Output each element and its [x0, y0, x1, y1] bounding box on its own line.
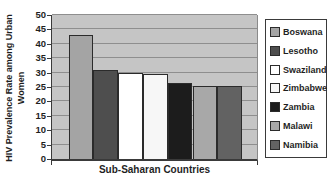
legend-label: Lesotho	[283, 46, 318, 56]
legend-item-lesotho: Lesotho	[270, 46, 326, 56]
y-tick-label-35: 35	[24, 53, 46, 63]
y-tick-mark-45	[47, 29, 51, 30]
bar-lesotho	[93, 70, 118, 159]
y-tick-mark-30	[47, 73, 51, 74]
legend-swatch-swaziland	[270, 65, 280, 75]
y-tick-label-0: 0	[24, 154, 46, 164]
legend-label: Swaziland	[283, 65, 327, 75]
x-tick-mark-left	[51, 161, 52, 165]
y-tick-mark-20	[47, 101, 51, 102]
bar-zimbabwe	[143, 74, 168, 159]
legend-swatch-zambia	[270, 102, 280, 112]
y-tick-label-25: 25	[24, 82, 46, 92]
y-tick-mark-10	[47, 130, 51, 131]
legend-swatch-namibia	[270, 140, 280, 150]
y-tick-label-15: 15	[24, 111, 46, 121]
y-axis-title-line1: HIV Prevalence Rate among Urban	[3, 13, 15, 163]
bar-swaziland	[118, 73, 143, 159]
legend-swatch-malawi	[270, 121, 280, 131]
bar-zambia	[168, 83, 193, 159]
x-tick-mark-right	[257, 161, 258, 165]
legend-label: Zimbabwe	[283, 83, 327, 93]
gridline-45	[52, 28, 257, 29]
y-tick-mark-0	[47, 159, 51, 160]
bar-namibia	[217, 86, 242, 159]
y-tick-mark-50	[47, 15, 51, 16]
legend-item-boswana: Boswana	[270, 27, 326, 37]
y-tick-mark-40	[47, 44, 51, 45]
y-tick-label-40: 40	[24, 39, 46, 49]
legend-label: Zambia	[283, 102, 315, 112]
plot-area	[51, 15, 258, 161]
legend-swatch-lesotho	[270, 46, 280, 56]
gridline-50	[52, 14, 257, 15]
y-tick-label-5: 5	[24, 140, 46, 150]
bar-chart: HIV Prevalence Rate among Urban Women Su…	[0, 0, 333, 182]
y-tick-label-20: 20	[24, 96, 46, 106]
legend-label: Namibia	[283, 140, 318, 150]
bar-malawi	[193, 86, 218, 159]
y-tick-label-10: 10	[24, 125, 46, 135]
legend-item-swaziland: Swaziland	[270, 65, 326, 75]
legend-swatch-zimbabwe	[270, 83, 280, 93]
y-tick-label-45: 45	[24, 24, 46, 34]
y-tick-mark-35	[47, 58, 51, 59]
y-tick-label-50: 50	[24, 10, 46, 20]
y-tick-mark-5	[47, 145, 51, 146]
legend-label: Boswana	[283, 27, 323, 37]
legend-item-zambia: Zambia	[270, 102, 326, 112]
x-axis-title: Sub-Saharan Countries	[51, 164, 258, 175]
bar-boswana	[69, 35, 94, 159]
y-tick-mark-15	[47, 116, 51, 117]
y-tick-mark-25	[47, 87, 51, 88]
legend-label: Malawi	[283, 121, 313, 131]
legend-item-zimbabwe: Zimbabwe	[270, 83, 326, 93]
legend: BoswanaLesothoSwazilandZimbabweZambiaMal…	[265, 19, 327, 158]
y-tick-label-30: 30	[24, 68, 46, 78]
legend-item-malawi: Malawi	[270, 121, 326, 131]
legend-swatch-boswana	[270, 27, 280, 37]
legend-item-namibia: Namibia	[270, 140, 326, 150]
